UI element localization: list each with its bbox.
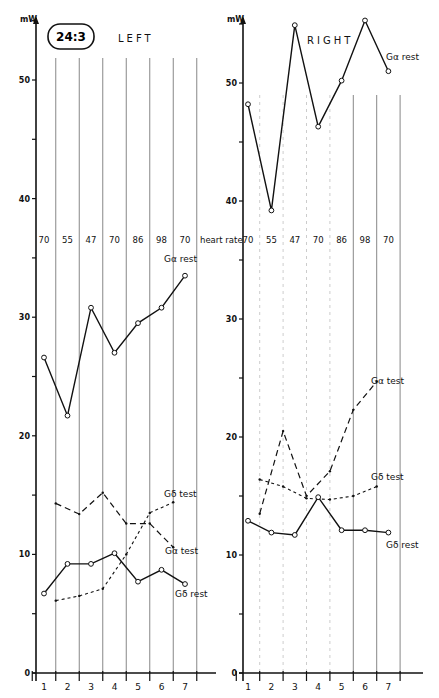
series-label-ga-test: Gα test	[371, 376, 405, 386]
x-tick-label: 3	[88, 682, 94, 692]
data-point	[329, 470, 331, 472]
x-tick-label: 4	[315, 682, 321, 692]
heart-rate-value: 86	[133, 235, 144, 245]
data-point	[172, 501, 174, 503]
right-panel: mW01020304050123456770554770869870Gα res…	[226, 15, 423, 692]
unit-label: mW	[20, 15, 37, 24]
x-tick-label: 5	[339, 682, 345, 692]
data-point	[329, 498, 331, 500]
data-point	[352, 409, 354, 411]
data-point	[89, 561, 94, 566]
data-point	[363, 18, 368, 23]
data-point	[352, 495, 354, 497]
left-panel: mW01020304050123456770554770869870heart …	[19, 15, 243, 692]
data-point	[136, 321, 141, 326]
y-tick-label: 10	[226, 551, 238, 560]
heart-rate-label: heart rate	[200, 235, 243, 245]
data-point	[316, 124, 321, 129]
data-point	[269, 208, 274, 213]
y-tick-label: 30	[226, 315, 238, 324]
badge-text: 24:3	[56, 30, 86, 44]
x-tick-label: 2	[65, 682, 71, 692]
y-tick-label: 50	[226, 79, 238, 88]
data-point	[149, 512, 151, 514]
y-tick-label: 20	[19, 432, 31, 441]
heart-rate-value: 70	[383, 235, 394, 245]
series-label-ga-test: Gα test	[165, 546, 199, 556]
data-point	[316, 495, 321, 500]
data-point	[55, 502, 57, 504]
series-gα-test	[56, 493, 174, 548]
series-label-ga-rest: Gα rest	[164, 254, 197, 264]
left-title: LEFT	[118, 33, 154, 44]
y-tick-label: 20	[226, 433, 238, 442]
data-point	[159, 567, 164, 572]
data-point	[102, 492, 104, 494]
y-tick-label: 30	[19, 313, 31, 322]
right-title: RIGHT	[307, 35, 353, 46]
dual-line-chart: 24:3 LEFT RIGHT mW0102030405012345677055…	[0, 0, 439, 698]
heart-rate-value: 70	[243, 235, 254, 245]
data-point	[305, 497, 307, 499]
y-tick-label: 50	[19, 76, 31, 85]
y-tick-label: 40	[226, 197, 238, 206]
y-tick-label: 0	[24, 669, 30, 678]
data-point	[259, 513, 261, 515]
heart-rate-value: 55	[266, 235, 277, 245]
y-tick-label: 10	[19, 550, 31, 559]
data-point	[42, 591, 47, 596]
data-point	[292, 23, 297, 28]
data-point	[55, 599, 57, 601]
series-label-gd-test: Gδ test	[371, 472, 404, 482]
data-point	[159, 305, 164, 310]
data-point	[282, 485, 284, 487]
data-point	[282, 430, 284, 432]
heart-rate-value: 98	[156, 235, 167, 245]
x-tick-label: 2	[269, 682, 275, 692]
heart-rate-value: 70	[180, 235, 191, 245]
heart-rate-value: 47	[86, 235, 97, 245]
x-tick-label: 5	[135, 682, 141, 692]
data-point	[292, 533, 297, 538]
x-tick-label: 1	[41, 682, 47, 692]
heart-rate-value: 98	[360, 235, 371, 245]
x-tick-label: 4	[112, 682, 118, 692]
heart-rate-value: 70	[109, 235, 120, 245]
data-point	[259, 478, 261, 480]
data-point	[246, 518, 251, 523]
data-point	[102, 588, 104, 590]
x-tick-label: 1	[245, 682, 251, 692]
data-point	[112, 350, 117, 355]
data-point	[136, 579, 141, 584]
data-point	[305, 495, 307, 497]
x-tick-label: 6	[362, 682, 368, 692]
heart-rate-value: 55	[62, 235, 73, 245]
x-tick-label: 3	[292, 682, 298, 692]
unit-label: mW	[227, 15, 244, 24]
series-label-gd-rest: Gδ rest	[175, 589, 208, 599]
series-gδ-rest	[44, 553, 185, 593]
data-point	[363, 528, 368, 533]
data-point	[269, 530, 274, 535]
data-point	[246, 102, 251, 107]
series-label-gd-rest: Gδ rest	[386, 540, 419, 550]
series-gα-rest	[248, 20, 388, 210]
data-point	[65, 561, 70, 566]
x-tick-label: 7	[182, 682, 188, 692]
data-point	[125, 553, 127, 555]
series-gα-rest	[44, 276, 185, 416]
data-point	[65, 413, 70, 418]
data-point	[89, 305, 94, 310]
series-label-gd-test: Gδ test	[164, 489, 197, 499]
data-point	[339, 78, 344, 83]
x-tick-label: 7	[386, 682, 392, 692]
data-point	[339, 528, 344, 533]
data-point	[112, 551, 117, 556]
y-tick-label: 40	[19, 195, 31, 204]
data-point	[78, 513, 80, 515]
data-point	[183, 582, 188, 587]
x-tick-label: 6	[159, 682, 165, 692]
data-point	[386, 69, 391, 74]
data-point	[376, 485, 378, 487]
figure-badge: 24:3	[48, 24, 94, 49]
